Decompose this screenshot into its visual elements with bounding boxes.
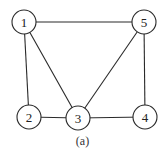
- node-2: 2: [17, 105, 41, 129]
- node-label: 1: [21, 15, 28, 30]
- node-4: 4: [133, 105, 157, 129]
- node-label: 5: [141, 15, 148, 30]
- node-label: 3: [75, 111, 82, 126]
- edge-5-4: [144, 22, 145, 117]
- nodes-layer: 12345: [12, 10, 157, 130]
- node-1: 1: [12, 10, 36, 34]
- node-label: 2: [26, 110, 33, 125]
- edge-1-2: [24, 22, 29, 117]
- node-5: 5: [132, 10, 156, 34]
- edge-1-3: [24, 22, 78, 118]
- node-3: 3: [66, 106, 90, 130]
- figure-caption: (a): [0, 134, 165, 149]
- node-label: 4: [142, 110, 149, 125]
- edges-layer: [24, 22, 145, 118]
- edge-5-3: [78, 22, 144, 118]
